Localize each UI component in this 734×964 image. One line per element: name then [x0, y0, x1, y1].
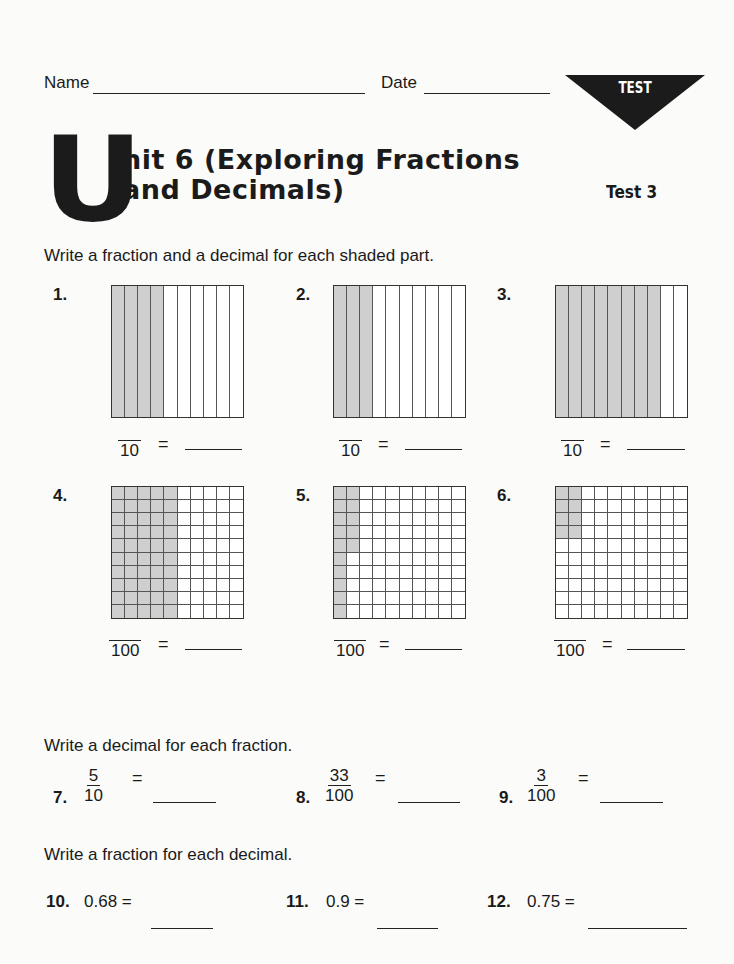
grid-cell — [569, 553, 582, 566]
numerator: 5 — [87, 766, 100, 786]
title-line-2: and Decimals) — [122, 175, 520, 205]
grid-cell — [386, 605, 399, 618]
problem-3-decimal-answer[interactable] — [627, 448, 685, 450]
grid-cell — [582, 579, 595, 592]
problem-5-decimal-answer[interactable] — [405, 648, 462, 650]
grid-cell — [582, 605, 595, 618]
grid-cell — [230, 553, 243, 566]
grid-cell — [178, 487, 191, 500]
grid-cell — [138, 539, 151, 552]
problem-6-denominator: 100 — [554, 640, 586, 661]
problem-10-answer[interactable] — [151, 927, 213, 929]
grid-cell — [204, 539, 217, 552]
grid-cell — [608, 500, 621, 513]
problem-12-answer[interactable] — [588, 927, 687, 929]
grid-cell — [413, 526, 426, 539]
grid-cell — [452, 579, 465, 592]
grid-cell — [112, 553, 125, 566]
grid-cell — [164, 605, 177, 618]
grid-cell — [569, 526, 582, 539]
grid-cell — [582, 500, 595, 513]
grid-cell — [648, 553, 661, 566]
equals-sign: = — [158, 434, 169, 455]
grid-cell — [112, 500, 125, 513]
grid-cell — [360, 286, 373, 417]
grid-cell — [582, 566, 595, 579]
grid-cell — [138, 553, 151, 566]
grid-cell — [622, 286, 635, 417]
grid-cell — [373, 513, 386, 526]
grid-cell — [674, 286, 687, 417]
grid-cell — [595, 487, 608, 500]
grid-cell — [635, 526, 648, 539]
problem-6-numerator-input[interactable] — [554, 620, 588, 640]
grid-cell — [452, 592, 465, 605]
grid-cell — [400, 539, 413, 552]
grid-cell — [347, 487, 360, 500]
grid-cell — [125, 553, 138, 566]
problem-5-numerator-input[interactable] — [334, 620, 368, 640]
grid-cell — [386, 553, 399, 566]
grid-cell — [452, 513, 465, 526]
problem-9-answer[interactable] — [600, 801, 663, 803]
grid-cell — [125, 513, 138, 526]
grid-cell — [125, 566, 138, 579]
grid-cell — [622, 566, 635, 579]
equals-sign: = — [379, 634, 390, 655]
problem-9-number: 9. — [499, 788, 513, 808]
grid-cell — [556, 553, 569, 566]
problem-6-decimal-answer[interactable] — [627, 648, 685, 650]
name-label: Name — [44, 73, 89, 93]
grid-cell — [661, 500, 674, 513]
grid-cell — [178, 553, 191, 566]
grid-cell — [635, 500, 648, 513]
problem-1-decimal-answer[interactable] — [185, 448, 242, 450]
grid-cell — [138, 513, 151, 526]
grid-cell — [373, 605, 386, 618]
page-title: nit 6 (Exploring Fractions and Decimals) — [122, 145, 520, 205]
grid-cell — [191, 500, 204, 513]
problem-1-numerator-input[interactable] — [118, 420, 142, 440]
grid-cell — [452, 286, 465, 417]
problem-10-number: 10. — [46, 892, 70, 912]
grid-cell — [230, 605, 243, 618]
grid-cell — [164, 286, 177, 417]
grid-cell — [622, 500, 635, 513]
problem-11-answer[interactable] — [377, 927, 438, 929]
grid-cell — [125, 286, 138, 417]
date-field[interactable] — [424, 73, 550, 94]
problem-4-decimal-answer[interactable] — [185, 648, 242, 650]
problem-5-denominator: 100 — [334, 640, 366, 661]
grid-cell — [334, 553, 347, 566]
grid-cell — [386, 539, 399, 552]
problem-2-numerator-input[interactable] — [339, 420, 363, 440]
grid-cell — [648, 500, 661, 513]
problem-8-answer[interactable] — [398, 801, 460, 803]
grid-cell — [439, 566, 452, 579]
grid-cell — [452, 487, 465, 500]
grid-cell — [426, 566, 439, 579]
grid-cell — [334, 487, 347, 500]
name-field[interactable] — [93, 73, 365, 94]
grid-cell — [178, 605, 191, 618]
grid-cell — [674, 526, 687, 539]
grid-cell — [373, 579, 386, 592]
grid-cell — [635, 579, 648, 592]
grid-cell — [400, 513, 413, 526]
grid-cell — [635, 513, 648, 526]
problem-2-decimal-answer[interactable] — [405, 448, 462, 450]
denominator: 100 — [325, 786, 353, 805]
grid-cell — [360, 605, 373, 618]
grid-cell — [674, 566, 687, 579]
problem-7-answer[interactable] — [153, 801, 216, 803]
grid-cell — [569, 513, 582, 526]
grid-cell — [138, 605, 151, 618]
problem-3-numerator-input[interactable] — [561, 420, 585, 440]
grid-cell — [151, 539, 164, 552]
problem-7-fraction: 5 10 — [84, 766, 103, 805]
grid-cell — [413, 539, 426, 552]
problem-4-numerator-input[interactable] — [109, 620, 143, 640]
grid-cell — [191, 487, 204, 500]
grid-cell — [386, 487, 399, 500]
grid-cell — [334, 286, 347, 417]
